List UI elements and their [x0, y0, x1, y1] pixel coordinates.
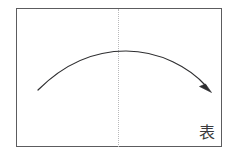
corner-character-label: 表: [196, 122, 218, 144]
parabolic-arc-path: [38, 51, 206, 90]
arrowhead-icon: [200, 84, 212, 93]
figure-root: 表: [0, 0, 233, 161]
